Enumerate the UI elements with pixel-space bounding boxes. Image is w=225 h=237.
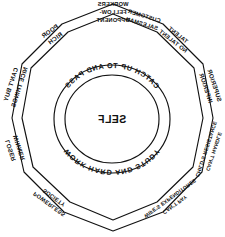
segment-left: INFERIOR SUPERIOR bbox=[198, 68, 224, 105]
segment-lower-right: WINNER LOSER bbox=[3, 134, 26, 164]
segment-lower-left: CHILD'S RESISTANCE CAN'T HANDLE bbox=[195, 120, 225, 180]
segment-top-left: SALESMAN CUSTOMER bbox=[125, 8, 162, 31]
segment-top-inner-label-2: WORKERS bbox=[97, 1, 128, 7]
inner-ring-top-text: CATCH UP TO AND PASS bbox=[63, 61, 162, 90]
mirrored-drawing-group: SELF CATCH UP TO AND PASS WORK HARD AND … bbox=[1, 1, 225, 231]
segment-top: OPPONENT FELLOW- WORKERS bbox=[96, 1, 130, 23]
circular-self-diagram: SELF CATCH UP TO AND PASS WORK HARD AND … bbox=[0, 0, 225, 237]
center-self-label: SELF bbox=[98, 113, 127, 125]
segment-top-outer-label: OPPONENT bbox=[96, 17, 130, 23]
diagram-canvas: SELF CATCH UP TO AND PASS WORK HARD AND … bbox=[0, 0, 225, 237]
inner-ring-bottom-text: WORK HARD AND STUDY bbox=[62, 147, 162, 177]
segment-bottom-right: SOCIETY POWERLESS bbox=[32, 184, 71, 218]
segment-top-inner-label: FELLOW- bbox=[99, 9, 126, 15]
